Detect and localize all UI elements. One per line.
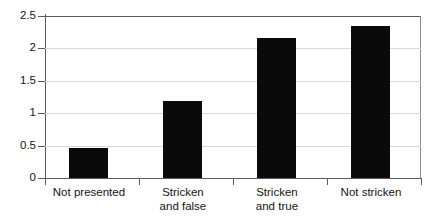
x-tick-mark-1 <box>139 178 140 185</box>
bar <box>163 101 202 178</box>
x-tick-mark-2 <box>233 178 234 185</box>
category-label: Stricken and true <box>230 186 324 213</box>
y-tick-label-2: 2 <box>0 43 36 55</box>
plot-right-border <box>420 16 421 178</box>
x-tick-mark-4 <box>421 178 422 185</box>
x-tick-mark-0 <box>45 178 46 185</box>
plot-top-border <box>45 16 421 17</box>
category-label: Stricken and false <box>136 186 230 213</box>
plot-area <box>45 16 421 178</box>
y-tick-label-0: 0 <box>0 172 36 184</box>
bar <box>257 38 296 178</box>
bar-chart: 00.511.522.5 Not presentedStricken and f… <box>0 0 436 221</box>
bar <box>69 148 108 178</box>
y-tick-label-1: 1 <box>0 107 36 119</box>
y-tick-label-2.5: 2.5 <box>0 10 36 22</box>
category-label: Not stricken <box>324 186 418 200</box>
y-tick-label-0.5: 0.5 <box>0 140 36 152</box>
y-tick-label-1.5: 1.5 <box>0 75 36 87</box>
bar <box>351 26 390 178</box>
category-label: Not presented <box>42 186 136 200</box>
x-tick-mark-3 <box>327 178 328 185</box>
